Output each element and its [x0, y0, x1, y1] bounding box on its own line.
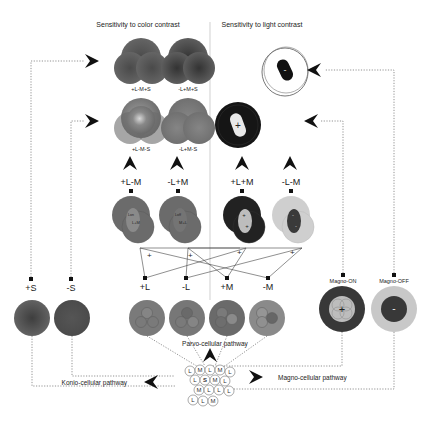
arrow-up-icon — [170, 156, 184, 170]
heading-light-contrast: Sensitivity to light contrast — [222, 21, 303, 29]
parvo-cell-minusL — [169, 300, 205, 336]
svg-text:S: S — [203, 377, 207, 383]
svg-text:M+L: M+L — [179, 220, 188, 225]
svg-text:-: - — [292, 212, 294, 218]
arrow-left-icon — [304, 114, 318, 128]
konio-cell-minusS — [54, 300, 90, 336]
arrow-left-icon — [144, 375, 158, 389]
arrow-left-icon — [307, 63, 321, 77]
arrow-right-icon — [249, 370, 263, 384]
opponent-label: +L-M — [121, 177, 142, 187]
svg-text:-: - — [295, 223, 297, 229]
svg-text:Loff: Loff — [175, 213, 181, 217]
arrow-right-icon — [85, 114, 99, 128]
parvo-label: -L — [182, 282, 190, 292]
opponent-cell-plusL-plusM: + + — [223, 196, 265, 243]
opponent-label: -L-M — [282, 177, 301, 187]
arrow-right-icon — [85, 54, 99, 68]
konio-label: -S — [67, 283, 76, 293]
svg-text:M: M — [218, 367, 223, 373]
svg-text:M: M — [213, 377, 218, 383]
arrow-up-icon — [283, 156, 297, 170]
parvo-pathway-label: Parvo-cellular pathway — [182, 340, 249, 348]
svg-text:+: + — [237, 248, 242, 257]
parvo-label: +L — [140, 282, 150, 292]
arrow-up-icon — [235, 156, 249, 170]
minus-sign: - — [284, 65, 287, 75]
retina-pathway-diagram: Sensitivity to color contrast Sensitivit… — [0, 0, 430, 421]
arrow-up-icon — [203, 348, 217, 362]
color-output-2 — [161, 38, 215, 84]
svg-text:M: M — [211, 398, 216, 404]
color-output-3 — [114, 98, 168, 144]
color-output-1 — [114, 38, 168, 84]
parvo-cell-plusL — [129, 300, 165, 336]
cone-mosaic: L M L M L L S M L M L L L L L M — [185, 365, 235, 406]
plus-sign: + — [235, 120, 241, 131]
parvo-label: +M — [221, 282, 234, 292]
svg-text:M: M — [198, 367, 203, 373]
svg-text:+: + — [242, 212, 246, 218]
svg-text:+: + — [339, 303, 345, 315]
svg-text:+: + — [245, 223, 249, 229]
color-output-label: -L+M-S — [179, 146, 198, 152]
color-output-4 — [161, 98, 215, 144]
svg-text:+: + — [188, 251, 193, 260]
cone-row-1: L M L M L — [185, 365, 235, 377]
cone-row-3: M L L L — [194, 385, 234, 396]
cone-row-2: L S M L — [190, 375, 230, 386]
parvo-cell-minusM — [249, 300, 285, 336]
parvo-label: -M — [263, 282, 274, 292]
svg-text:L+M: L+M — [132, 220, 140, 225]
opponent-cell-plusL-minusM: Lon L+M — [112, 196, 154, 243]
konio-label: +S — [25, 283, 36, 293]
magno-on-cell: + — [319, 286, 365, 332]
parvo-cell-plusM — [209, 300, 245, 336]
magno-off-cell: - — [371, 286, 417, 332]
light-output-on: + — [215, 102, 261, 148]
heading-color-contrast: Sensitivity to color contrast — [96, 21, 179, 29]
konio-pathway-label: Konio-cellular pathway — [62, 379, 128, 387]
svg-text:M: M — [197, 387, 202, 393]
light-output-off: - — [262, 47, 308, 96]
svg-text:+: + — [147, 251, 152, 260]
magno-pathway-label: Magno-cellular pathway — [278, 374, 347, 382]
magno-label: Magno-OFF — [379, 278, 409, 284]
color-output-label: -L+M+S — [178, 86, 198, 92]
color-output-label: +L-M-S — [132, 146, 151, 152]
arrow-up-icon — [123, 156, 137, 170]
opponent-cell-minusL-minusM: - - — [272, 196, 314, 243]
svg-text:+: + — [290, 248, 295, 257]
opponent-label: -L+M — [168, 177, 189, 187]
svg-text:-: - — [392, 303, 395, 314]
opponent-cell-minusL-plusM: Loff M+L — [159, 196, 201, 243]
color-output-label: +L-M+S — [131, 86, 151, 92]
magno-label: Magno-ON — [330, 278, 357, 284]
svg-text:Lon: Lon — [128, 213, 134, 217]
opponent-label: +L+M — [230, 177, 253, 187]
konio-cell-plusS — [14, 300, 50, 336]
crossing-connections — [140, 248, 302, 278]
cone-row-4: L L M — [188, 395, 218, 406]
